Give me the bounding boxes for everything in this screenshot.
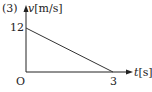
y-axis-label: v[m/s] bbox=[28, 3, 63, 14]
problem-label: (3) bbox=[2, 3, 18, 14]
y-axis-unit: [m/s] bbox=[34, 2, 62, 15]
x-axis-label: t[s] bbox=[134, 67, 152, 78]
origin-label: O bbox=[16, 76, 25, 87]
x-axis-arrow-icon bbox=[126, 70, 133, 75]
x-tick-3: 3 bbox=[110, 76, 117, 87]
x-axis-unit: [s] bbox=[138, 66, 152, 79]
velocity-line bbox=[26, 28, 113, 72]
y-tick-12: 12 bbox=[10, 22, 24, 33]
